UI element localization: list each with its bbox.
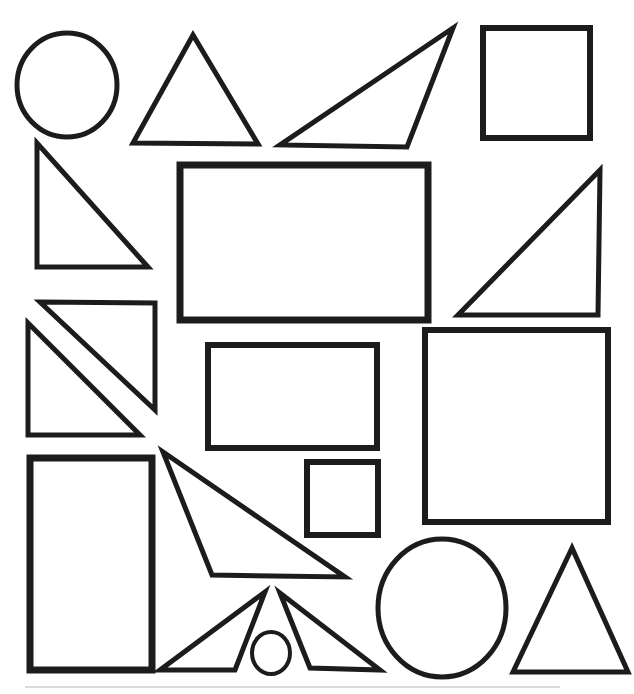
rectangle-medium-center xyxy=(208,345,377,448)
square-large-right xyxy=(425,330,608,522)
square-small-center xyxy=(307,462,378,535)
triangle-right-angle-right xyxy=(458,170,600,315)
circle-large-top-left xyxy=(17,33,117,137)
triangle-acute-top xyxy=(133,35,258,144)
shapes-canvas xyxy=(0,0,634,694)
triangle-isosceles-bottom-right xyxy=(513,548,628,672)
triangle-small-bottom-right xyxy=(280,593,380,670)
square-top-right xyxy=(483,28,590,138)
triangle-small-bottom-left xyxy=(160,592,265,670)
shapes-worksheet-page xyxy=(0,0,634,694)
circle-large-bottom xyxy=(378,539,506,677)
rectangle-large-center xyxy=(180,165,428,320)
rectangle-tall-bottom-left xyxy=(30,458,152,670)
circle-small-bottom xyxy=(252,632,290,674)
triangle-scalene-top xyxy=(280,28,453,147)
triangle-right-angle-left xyxy=(37,143,148,267)
